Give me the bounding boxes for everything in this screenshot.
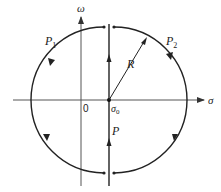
p1-label: P1 bbox=[44, 34, 56, 50]
sigma0-label: σ0 bbox=[111, 103, 120, 116]
endpoint-dot bbox=[102, 25, 105, 28]
origin-label: 0 bbox=[83, 103, 89, 114]
arrow-up-icon bbox=[107, 54, 112, 62]
p2-label: P2 bbox=[165, 34, 177, 50]
endpoint-dot bbox=[112, 25, 115, 28]
arrow-up-icon bbox=[107, 138, 112, 146]
arrow-p2-upper-icon bbox=[166, 52, 173, 60]
p-label: P bbox=[111, 124, 120, 138]
arrow-p1-upper-icon bbox=[48, 58, 55, 66]
endpoint-dot bbox=[112, 171, 115, 174]
radius-label: R bbox=[126, 57, 135, 71]
endpoint-dot bbox=[102, 171, 105, 174]
omega-axis-label: ω bbox=[77, 2, 85, 14]
sigma-axis-label: σ bbox=[208, 94, 214, 106]
arrow-p1-lower-icon bbox=[43, 134, 50, 141]
radius-arrow-icon bbox=[141, 37, 147, 45]
contour-diagram: ω σ 0 σ0 R P1 P2 P bbox=[0, 0, 221, 192]
